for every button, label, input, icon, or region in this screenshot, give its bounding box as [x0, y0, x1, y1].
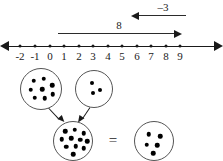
number-line-tick-dot — [150, 45, 153, 48]
dot-counter — [71, 152, 76, 157]
dot-counter — [81, 146, 86, 151]
dot-counter — [69, 136, 74, 141]
dot-counter — [31, 78, 36, 83]
dot-counter — [72, 127, 77, 132]
dot-counter — [144, 142, 149, 147]
dot-counter — [85, 139, 90, 144]
addend-circle-left — [20, 68, 62, 110]
dot-counter — [81, 131, 86, 136]
dot-counter — [42, 96, 47, 101]
number-line-tick-label: -1 — [30, 50, 39, 62]
dot-counter — [41, 76, 46, 81]
dot-counter — [151, 151, 156, 156]
jump-arrow-label: –3 — [158, 1, 169, 13]
number-line-tick-label: 3 — [90, 50, 96, 62]
dot-counter — [73, 144, 78, 149]
dot-counter — [146, 132, 151, 137]
number-line-tick-dot — [34, 45, 37, 48]
sum-circle — [53, 121, 93, 161]
dot-counter — [90, 81, 94, 85]
number-line-tick-dot — [121, 45, 124, 48]
equals-sign: = — [109, 133, 117, 148]
dot-counter — [50, 83, 55, 88]
jump-arrow-shaft — [58, 33, 180, 34]
number-line-tick-label: 1 — [61, 50, 67, 62]
number-line-left-arrowhead — [0, 41, 9, 51]
number-line-tick-dot — [92, 45, 95, 48]
dot-counter — [155, 143, 160, 148]
jump-arrow-shaft — [133, 15, 186, 16]
figure-canvas: 8–3 -2-10123456789 = — [0, 0, 223, 161]
dot-counter — [64, 144, 69, 149]
number-line-tick-dot — [107, 45, 110, 48]
number-line-axis — [6, 46, 217, 47]
number-line-tick-label: 7 — [148, 50, 154, 62]
number-line-tick-dot — [78, 45, 81, 48]
number-line-tick-label: -2 — [15, 50, 24, 62]
number-line-tick-label: 6 — [134, 50, 140, 62]
dot-counter — [63, 129, 68, 134]
dot-counter — [50, 92, 55, 97]
dot-counter — [158, 134, 163, 139]
number-line-tick-dot — [179, 45, 182, 48]
number-line-tick-dot — [165, 45, 168, 48]
dot-counter — [40, 87, 45, 92]
number-line-tick-dot — [49, 45, 52, 48]
dot-counter — [78, 137, 83, 142]
number-line-tick-label: 4 — [105, 50, 111, 62]
dot-counter — [91, 91, 95, 95]
number-line-tick-label: 2 — [76, 50, 82, 62]
dot-counter — [28, 87, 33, 92]
number-line-tick-label: 9 — [177, 50, 183, 62]
dot-counter — [59, 137, 64, 142]
number-line-tick-label: 0 — [47, 50, 53, 62]
dot-counter — [32, 95, 37, 100]
jump-arrow-label: 8 — [116, 19, 122, 31]
result-circle — [134, 121, 174, 161]
number-line-tick-label: 5 — [119, 50, 125, 62]
jump-arrow-head — [131, 12, 139, 20]
number-line-tick-dot — [136, 45, 139, 48]
jump-arrow-head — [174, 30, 182, 38]
number-line-tick-dot — [63, 45, 66, 48]
dot-counter — [98, 88, 102, 92]
addend-circle-right — [75, 70, 113, 108]
number-line-right-arrowhead — [214, 41, 223, 51]
number-line-tick-label: 8 — [163, 50, 169, 62]
number-line-tick-dot — [19, 45, 22, 48]
